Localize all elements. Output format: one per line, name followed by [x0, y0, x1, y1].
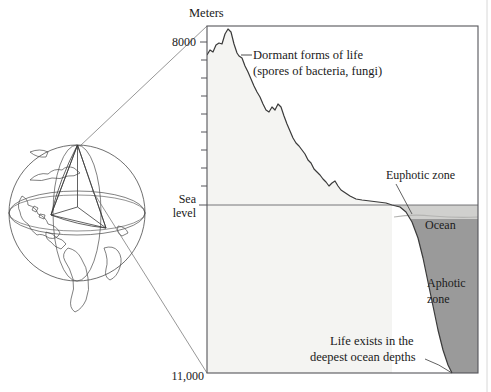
annotation-ocean: Ocean [425, 218, 456, 232]
axis-title: Meters [189, 6, 224, 20]
globe-inset [9, 26, 207, 373]
y-label-top: 8000 [172, 35, 196, 49]
annotation-aphotic-line1: Aphotic [427, 276, 466, 290]
annotation-depths-line1: Life exists in the [330, 334, 414, 348]
globe-circle [9, 145, 145, 281]
annotation-dormant-line1: Dormant forms of life [253, 48, 363, 62]
annotation-dormant-line2: (spores of bacteria, fungi) [253, 64, 382, 78]
annotation-euphotic-zone: Euphotic zone [386, 168, 455, 182]
depth-chart [199, 26, 478, 373]
land-terrain-fill [207, 29, 392, 373]
y-label-bottom: 11,000 [171, 369, 204, 383]
y-label-sea-level-line2: level [173, 206, 197, 220]
annotation-aphotic-line2: zone [427, 292, 450, 306]
y-label-sea-level-line1: Sea [179, 192, 197, 206]
earth-life-depth-figure: Meters 8000 Sea level 11,000 Dormant for… [0, 0, 491, 392]
annotation-depths-line2: deepest ocean depths [310, 350, 416, 364]
y-axis-ticks [199, 42, 207, 205]
